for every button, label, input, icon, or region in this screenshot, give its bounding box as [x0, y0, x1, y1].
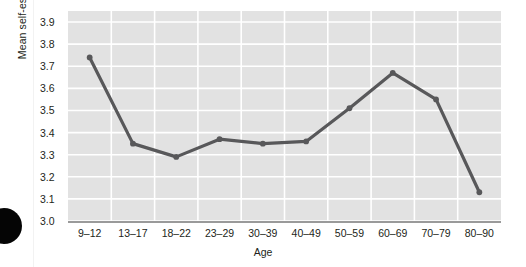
data-point-marker [130, 141, 136, 147]
page-edge-divider [33, 0, 34, 267]
data-point-marker [347, 105, 353, 111]
y-axis-tick-labels: 3.03.13.23.33.43.53.63.73.83.9 [40, 14, 66, 220]
x-axis-tick-labels: 9–1213–1718–2223–2930–3940–4950–5960–697… [68, 226, 501, 242]
y-axis-tick-label: 3.5 [40, 105, 66, 116]
y-axis-tick-label: 3.6 [40, 83, 66, 94]
x-axis-tick-label: 23–29 [205, 226, 234, 240]
data-point-marker [476, 189, 482, 195]
y-axis-tick-label: 3.1 [40, 194, 66, 205]
x-axis-line [68, 221, 501, 223]
data-point-marker [217, 136, 223, 142]
data-point-marker [303, 139, 309, 145]
x-axis-tick-label: 40–49 [292, 226, 321, 240]
data-point-marker [87, 55, 93, 61]
x-axis-tick-label: 18–22 [162, 226, 191, 240]
chart-figure: Mean self-esteem score 3.03.13.23.33.43.… [0, 0, 526, 267]
y-axis-tick-label: 3.2 [40, 172, 66, 183]
data-point-marker [260, 141, 266, 147]
grid-lines-vertical [111, 11, 457, 221]
plot-area [68, 11, 501, 221]
line-chart-svg [68, 11, 501, 221]
x-axis-tick-label: 30–39 [248, 226, 277, 240]
y-axis-tick-label: 3.0 [40, 216, 66, 227]
x-axis-tick-label: 50–59 [335, 226, 364, 240]
x-axis-tick-label: 13–17 [118, 226, 147, 240]
y-axis-tick-label: 3.7 [40, 61, 66, 72]
page-dot-artifact [0, 208, 22, 244]
x-axis-tick-label: 9–12 [78, 226, 101, 240]
y-axis-tick-label: 3.4 [40, 128, 66, 139]
y-axis-title: Mean self-esteem score [14, 0, 30, 76]
x-axis-tick-label: 80–90 [465, 226, 494, 240]
y-axis-tick-label: 3.8 [40, 39, 66, 50]
data-point-marker [433, 97, 439, 103]
x-axis-title: Age [0, 245, 526, 259]
y-axis-tick-label: 3.3 [40, 150, 66, 161]
x-axis-tick-label: 70–79 [421, 226, 450, 240]
data-point-marker [173, 154, 179, 160]
x-axis-tick-label: 60–69 [378, 226, 407, 240]
y-axis-tick-label: 3.9 [40, 17, 66, 28]
data-point-marker [390, 70, 396, 76]
